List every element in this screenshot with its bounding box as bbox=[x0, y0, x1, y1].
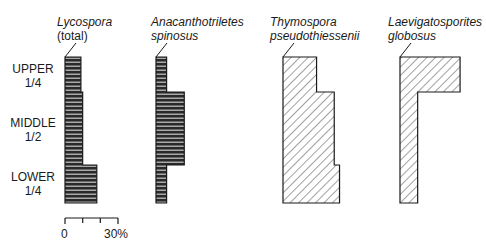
leader-line-anacanthotriletes bbox=[156, 43, 167, 57]
palynology-chart bbox=[0, 0, 486, 247]
bar-lycospora bbox=[65, 57, 97, 203]
scale-min-label: 0 bbox=[61, 227, 68, 241]
leader-line-laevigatosporites bbox=[400, 43, 411, 57]
leader-line-thymospora bbox=[283, 43, 294, 57]
scale-max-label: 30% bbox=[104, 227, 128, 241]
bar-laevigatosporites bbox=[400, 57, 460, 203]
bar-anacanthotriletes bbox=[156, 57, 184, 203]
scale-bar bbox=[65, 218, 118, 224]
bar-thymospora bbox=[283, 57, 340, 203]
leader-line-lycospora bbox=[65, 43, 76, 57]
